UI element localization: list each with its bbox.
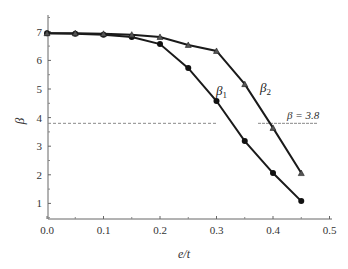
series-group: [44, 30, 304, 204]
series-line-β1: [47, 33, 301, 201]
axes: 0.00.10.20.30.40.51234567e/tβ: [12, 15, 337, 261]
y-tick-label: 3: [37, 140, 43, 152]
x-tick-label: 0.2: [153, 224, 167, 236]
x-tick-label: 0.0: [40, 224, 54, 236]
y-axis-label: β: [12, 117, 27, 125]
data-point: [185, 65, 191, 71]
y-tick-label: 6: [37, 54, 43, 66]
x-axis-label: e/t: [178, 247, 191, 261]
x-tick-label: 0.5: [323, 224, 337, 236]
data-point: [242, 138, 248, 144]
data-point: [270, 170, 276, 176]
reference-line-label: β = 3.8: [286, 109, 320, 121]
x-tick-label: 0.4: [266, 224, 280, 236]
data-point: [298, 198, 304, 204]
x-tick-label: 0.1: [97, 224, 111, 236]
data-point: [214, 98, 220, 104]
y-tick-label: 1: [37, 197, 43, 209]
series-label-β2: β2: [259, 80, 271, 97]
y-tick-label: 7: [37, 26, 43, 38]
y-tick-label: 5: [37, 83, 43, 95]
series-line-β2: [47, 33, 301, 173]
y-tick-label: 4: [37, 112, 43, 124]
data-point: [157, 41, 163, 47]
reference-line: β = 3.8: [48, 109, 320, 123]
series-label-β1: β1: [215, 83, 227, 100]
y-tick-label: 2: [37, 169, 43, 181]
x-tick-label: 0.3: [210, 224, 224, 236]
chart: 0.00.10.20.30.40.51234567e/tβ β = 3.8 β1…: [0, 0, 348, 269]
